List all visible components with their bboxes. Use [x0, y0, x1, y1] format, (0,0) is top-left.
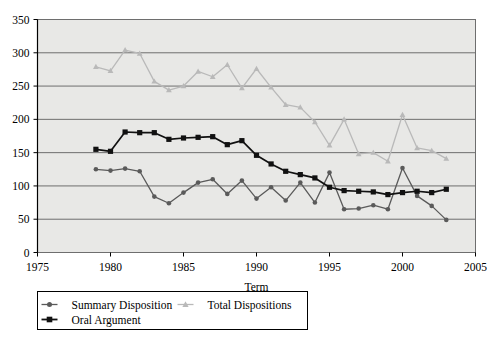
data-point — [371, 203, 376, 208]
data-point — [225, 192, 230, 197]
chart-legend: Summary DispositionTotal DispositionsOra… — [38, 292, 308, 330]
y-tick-label-50: 50 — [18, 213, 30, 225]
data-point — [269, 185, 274, 190]
data-point — [444, 187, 449, 192]
data-point — [386, 207, 391, 212]
legend-label: Total Dispositions — [208, 299, 292, 312]
data-point — [356, 189, 361, 194]
data-point — [225, 142, 230, 147]
data-point — [254, 153, 259, 158]
y-tick-label-300: 300 — [12, 47, 30, 59]
data-point — [415, 194, 420, 199]
data-point — [298, 180, 303, 185]
data-point — [283, 169, 288, 174]
data-point — [196, 180, 201, 185]
x-tick-label-2005: 2005 — [464, 261, 487, 273]
data-point — [239, 138, 244, 143]
data-point — [298, 172, 303, 177]
data-point — [254, 196, 259, 201]
data-point — [327, 185, 332, 190]
data-point — [123, 129, 128, 134]
data-point — [137, 169, 142, 174]
data-point — [269, 161, 274, 166]
data-point — [152, 130, 157, 135]
data-point — [313, 200, 318, 205]
y-tick-label-250: 250 — [12, 80, 30, 92]
data-point — [93, 147, 98, 152]
data-point — [283, 198, 288, 203]
data-point — [400, 166, 405, 171]
data-point — [400, 190, 405, 195]
line-chart: 050100150200250300350 197519801985199019… — [0, 0, 501, 338]
y-tick-label-0: 0 — [24, 247, 30, 259]
data-point — [342, 207, 347, 212]
x-tick-label-1995: 1995 — [318, 261, 341, 273]
x-tick-label-1980: 1980 — [99, 261, 122, 273]
data-point — [94, 167, 99, 172]
data-point — [123, 166, 128, 171]
data-point — [240, 178, 245, 183]
data-point — [167, 201, 172, 206]
x-tick-label-1975: 1975 — [26, 261, 49, 273]
plot-background — [38, 20, 476, 253]
data-point — [356, 206, 361, 211]
x-axis-title: Term — [244, 281, 268, 293]
data-point — [444, 218, 449, 223]
x-tick-label-1990: 1990 — [245, 261, 268, 273]
data-point — [108, 168, 113, 173]
data-point — [385, 192, 390, 197]
data-point — [152, 194, 157, 199]
data-point — [429, 190, 434, 195]
data-point — [196, 135, 201, 140]
data-point — [108, 149, 113, 154]
data-point — [181, 135, 186, 140]
x-tick-label-1985: 1985 — [172, 261, 195, 273]
chart-container: 050100150200250300350 197519801985199019… — [0, 0, 501, 338]
y-tick-label-150: 150 — [12, 147, 30, 159]
x-axis-title-label: Term — [244, 281, 268, 293]
y-tick-label-350: 350 — [12, 14, 30, 26]
data-point — [429, 204, 434, 209]
data-point — [166, 137, 171, 142]
legend-label: Summary Disposition — [72, 299, 173, 312]
legend-marker — [47, 317, 53, 323]
data-point — [210, 134, 215, 139]
plot-area — [38, 20, 476, 253]
data-point — [371, 189, 376, 194]
y-tick-label-200: 200 — [12, 113, 30, 125]
data-point — [181, 190, 186, 195]
data-point — [342, 188, 347, 193]
x-tick-label-2000: 2000 — [391, 261, 414, 273]
y-tick-label-100: 100 — [12, 180, 30, 192]
data-point — [137, 130, 142, 135]
data-point — [415, 189, 420, 194]
legend-label: Oral Argument — [72, 314, 142, 327]
data-point — [312, 175, 317, 180]
legend-marker — [47, 302, 52, 307]
data-point — [210, 177, 215, 182]
data-point — [327, 170, 332, 175]
